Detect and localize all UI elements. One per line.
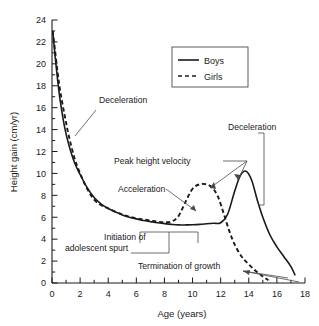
y-tick-label-4: 4 (41, 234, 46, 244)
annotation-initiation-line2: adolescent spurt (65, 243, 129, 253)
y-tick-label-14: 14 (36, 125, 46, 135)
x-tick-label-4: 4 (106, 289, 111, 299)
x-tick-label-16: 16 (272, 289, 282, 299)
annotation-acceleration: Acceleration (118, 184, 166, 194)
x-tick-label-12: 12 (216, 289, 226, 299)
x-tick-label-8: 8 (162, 289, 167, 299)
legend-label-girls: Girls (204, 72, 223, 82)
y-tick-label-10: 10 (36, 169, 46, 179)
x-tick-label-0: 0 (49, 289, 54, 299)
growth-velocity-chart-figure: 024681012141618202224 024681012141618 He… (0, 0, 319, 326)
chart-canvas: 024681012141618202224 024681012141618 He… (0, 0, 319, 326)
y-tick-label-16: 16 (36, 103, 46, 113)
y-tick-label-2: 2 (41, 256, 46, 266)
annotation-deceleration-adolescence: Deceleration (228, 122, 276, 132)
x-tick-label-14: 14 (244, 289, 254, 299)
legend-label-boys: Boys (204, 56, 225, 66)
annotation-deceleration-infancy: Deceleration (99, 95, 147, 105)
annotation-initiation-line1: Initiation of (104, 232, 146, 242)
y-tick-label-8: 8 (41, 191, 46, 201)
y-axis-title: Height gain (cm/yr) (8, 112, 19, 192)
y-tick-label-6: 6 (41, 213, 46, 223)
x-axis-title: Age (years) (157, 308, 206, 319)
y-tick-label-12: 12 (36, 147, 46, 157)
x-tick-label-10: 10 (188, 289, 198, 299)
chart-legend: Boys Girls (172, 47, 248, 87)
x-tick-label-2: 2 (78, 289, 83, 299)
x-tick-label-18: 18 (300, 289, 310, 299)
y-tick-label-18: 18 (36, 81, 46, 91)
y-tick-label-22: 22 (36, 37, 46, 47)
y-tick-label-0: 0 (41, 278, 46, 288)
annotation-peak-height-velocity: Peak height velocity (114, 156, 191, 166)
y-tick-label-20: 20 (36, 59, 46, 69)
x-tick-label-6: 6 (134, 289, 139, 299)
annotation-termination-of-growth: Termination of growth (138, 261, 220, 271)
y-tick-label-24: 24 (36, 15, 46, 25)
